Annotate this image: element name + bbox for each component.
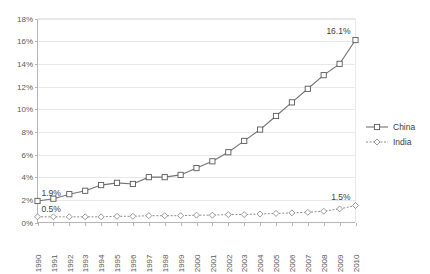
x-axis-tick-label: 2003 bbox=[240, 254, 249, 272]
data-point-marker bbox=[242, 138, 247, 143]
data-point-marker bbox=[305, 86, 310, 91]
data-point-marker bbox=[289, 210, 295, 216]
data-point-marker bbox=[321, 208, 327, 214]
x-axis-tick-label: 1990 bbox=[34, 254, 43, 272]
x-axis-tick-label: 2008 bbox=[320, 254, 329, 272]
y-axis-tick-labels: 0%2%4%6%8%10%12%14%16%18% bbox=[17, 15, 33, 228]
data-point-marker bbox=[194, 166, 199, 171]
data-point-marker bbox=[66, 214, 72, 220]
data-point-marker bbox=[82, 214, 88, 220]
data-point-marker bbox=[146, 175, 151, 180]
x-axis-tick-label: 1995 bbox=[113, 254, 122, 272]
data-point-marker bbox=[273, 113, 278, 118]
legend-marker-china bbox=[374, 124, 379, 129]
chart-legend: ChinaIndia bbox=[366, 122, 415, 147]
data-label: 0.5% bbox=[42, 204, 62, 214]
data-point-marker bbox=[226, 150, 231, 155]
data-point-marker bbox=[50, 214, 56, 220]
data-point-marker bbox=[273, 210, 279, 216]
data-point-marker bbox=[225, 212, 231, 218]
x-axis-tick-label: 2006 bbox=[288, 254, 297, 272]
data-label: 16.1% bbox=[326, 26, 351, 36]
data-point-marker bbox=[130, 181, 135, 186]
data-point-marker bbox=[353, 37, 358, 42]
data-point-marker bbox=[98, 214, 104, 220]
y-axis-tick-label: 16% bbox=[17, 37, 33, 46]
y-axis-tick-label: 14% bbox=[17, 60, 33, 69]
axes bbox=[35, 19, 357, 226]
x-axis-tick-label: 2000 bbox=[193, 254, 202, 272]
data-point-marker bbox=[257, 211, 263, 217]
x-axis-tick-label: 1994 bbox=[97, 254, 106, 272]
x-axis-tick-label: 1999 bbox=[177, 254, 186, 272]
x-axis-tick-labels: 1990199119921993199419951996199719981999… bbox=[34, 254, 361, 272]
data-point-marker bbox=[289, 100, 294, 105]
y-axis-tick-label: 2% bbox=[21, 196, 33, 205]
data-point-marker bbox=[321, 73, 326, 78]
data-point-marker bbox=[162, 213, 168, 219]
x-axis-tick-label: 1998 bbox=[161, 254, 170, 272]
data-point-marker bbox=[99, 183, 104, 188]
x-axis-tick-label: 2010 bbox=[352, 254, 361, 272]
y-axis-tick-label: 8% bbox=[21, 128, 33, 137]
x-axis-tick-label: 2001 bbox=[209, 254, 218, 272]
data-point-marker bbox=[130, 213, 136, 219]
y-axis-tick-label: 18% bbox=[17, 15, 33, 24]
x-axis-tick-label: 1993 bbox=[81, 254, 90, 272]
y-axis-tick-label: 6% bbox=[21, 151, 33, 160]
x-axis-tick-label: 2009 bbox=[336, 254, 345, 272]
data-point-marker bbox=[241, 212, 247, 218]
x-axis-tick-label: 1991 bbox=[50, 254, 59, 272]
x-axis-tick-label: 1997 bbox=[145, 254, 154, 272]
legend-label-india: India bbox=[393, 137, 412, 147]
x-axis-tick-label: 2005 bbox=[272, 254, 281, 272]
gridlines bbox=[38, 20, 356, 201]
data-point-marker bbox=[337, 206, 343, 212]
legend-label-china: China bbox=[393, 122, 415, 132]
legend-marker-india bbox=[374, 139, 380, 145]
data-point-marker bbox=[209, 212, 215, 218]
data-point-marker bbox=[258, 127, 263, 132]
data-point-marker bbox=[178, 172, 183, 177]
data-point-marker bbox=[210, 159, 215, 164]
x-axis-tick-label: 1996 bbox=[129, 254, 138, 272]
data-point-marker bbox=[114, 213, 120, 219]
data-point-marker bbox=[194, 212, 200, 218]
y-axis-tick-label: 12% bbox=[17, 83, 33, 92]
data-point-marker bbox=[353, 203, 359, 209]
data-label: 1.9% bbox=[42, 188, 62, 198]
x-axis-tick-label: 2007 bbox=[304, 254, 313, 272]
data-label: 1.5% bbox=[331, 192, 351, 202]
chart-canvas: 0%2%4%6%8%10%12%14%16%18% 19901991199219… bbox=[0, 0, 430, 274]
data-point-marker bbox=[114, 180, 119, 185]
y-axis-tick-label: 0% bbox=[21, 219, 33, 228]
data-point-marker bbox=[35, 198, 40, 203]
data-point-marker bbox=[146, 213, 152, 219]
data-point-marker bbox=[305, 209, 311, 215]
x-axis-tick-label: 2004 bbox=[256, 254, 265, 272]
line-chart: 0%2%4%6%8%10%12%14%16%18% 19901991199219… bbox=[0, 0, 430, 274]
y-axis-tick-label: 4% bbox=[21, 173, 33, 182]
x-axis-tick-label: 1992 bbox=[66, 254, 75, 272]
data-point-marker bbox=[162, 175, 167, 180]
x-axis-tick-label: 2002 bbox=[225, 254, 234, 272]
data-point-marker bbox=[67, 192, 72, 197]
data-labels: 1.9%0.5%16.1%1.5% bbox=[42, 26, 351, 214]
data-point-marker bbox=[83, 188, 88, 193]
data-point-marker bbox=[178, 213, 184, 219]
y-axis-tick-label: 10% bbox=[17, 105, 33, 114]
data-point-marker bbox=[337, 61, 342, 66]
data-point-marker bbox=[35, 214, 41, 220]
